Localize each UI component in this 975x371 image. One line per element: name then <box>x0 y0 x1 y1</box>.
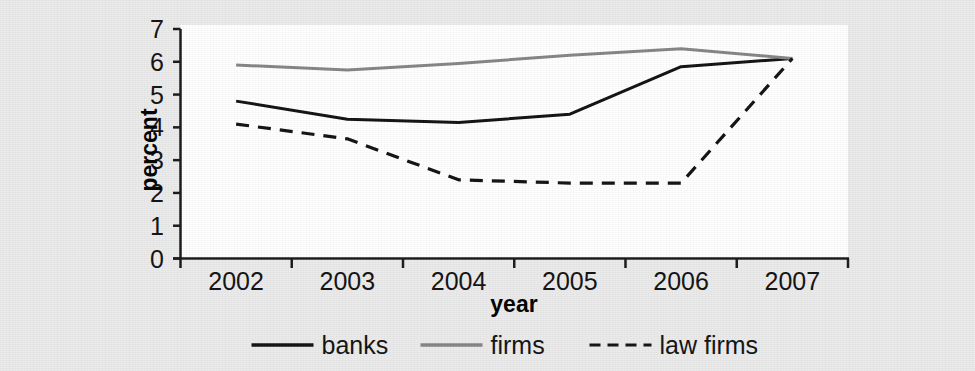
y-tick-label: 6 <box>150 48 164 76</box>
x-tick-label: 2004 <box>431 267 487 295</box>
line-chart: 01234567 200220032004200520062007 percen… <box>0 0 975 371</box>
legend-label-banks: banks <box>322 331 389 359</box>
chart-legend: banksfirmslaw firms <box>252 331 759 359</box>
y-tick-label: 5 <box>150 81 164 109</box>
chart-figure: 01234567 200220032004200520062007 percen… <box>0 0 975 371</box>
x-tick-label: 2002 <box>208 267 264 295</box>
y-tick-label: 7 <box>150 15 164 43</box>
legend-label-law-firms: law firms <box>660 331 759 359</box>
y-tick-label: 1 <box>150 212 164 240</box>
x-tick-label: 2007 <box>765 267 821 295</box>
y-tick-label: 0 <box>150 245 164 273</box>
y-axis-title: percent <box>136 108 162 191</box>
x-tick-label: 2003 <box>320 267 376 295</box>
legend-label-firms: firms <box>491 331 545 359</box>
x-tick-label: 2006 <box>653 267 709 295</box>
x-tick-label: 2005 <box>542 267 598 295</box>
x-axis-title: year <box>490 291 537 317</box>
